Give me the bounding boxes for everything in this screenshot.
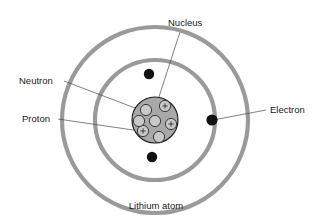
neutron-particle: [133, 115, 144, 126]
leader-line-nucleus: [156, 32, 180, 106]
diagram-canvas: NucleusNeutronProtonElectron Lithium ato…: [0, 0, 326, 217]
label-nucleus: Nucleus: [168, 17, 203, 28]
leader-line-proton: [58, 119, 140, 131]
label-neutron: Neutron: [19, 75, 53, 86]
neutron-particle: [153, 131, 164, 142]
neutron-particle: [149, 115, 160, 126]
label-proton: Proton: [22, 113, 50, 124]
nucleus-group: [132, 97, 178, 143]
electron-particle: [206, 114, 217, 125]
label-electron: Electron: [270, 104, 305, 115]
electron-particle: [147, 152, 157, 162]
electron-particle: [144, 69, 154, 79]
figure-caption: Lithium atom: [129, 200, 183, 211]
lithium-atom-diagram: NucleusNeutronProtonElectron Lithium ato…: [0, 0, 326, 217]
neutron-particle: [140, 104, 151, 115]
leader-line-electron: [213, 110, 266, 120]
